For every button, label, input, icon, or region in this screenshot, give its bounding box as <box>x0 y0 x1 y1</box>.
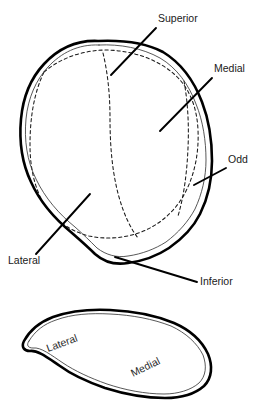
diagram-background <box>0 0 263 404</box>
label-superior: Superior <box>158 12 198 24</box>
patella-diagram-svg: Superior Medial Odd Lateral Inferior Lat… <box>0 0 263 404</box>
label-lateral-upper: Lateral <box>8 254 40 266</box>
label-inferior: Inferior <box>200 275 233 287</box>
label-odd: Odd <box>228 153 248 165</box>
label-medial-upper: Medial <box>214 62 245 74</box>
patella-diagram-root: Superior Medial Odd Lateral Inferior Lat… <box>0 0 263 404</box>
